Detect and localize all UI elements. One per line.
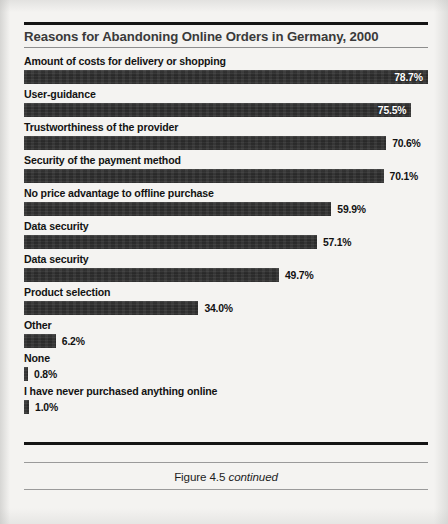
- bar-row: Amount of costs for delivery or shopping…: [24, 54, 428, 84]
- bar: [24, 202, 331, 216]
- figure-container: Reasons for Abandoning Online Orders in …: [0, 0, 448, 524]
- bar: [24, 334, 56, 348]
- bar-category-label: Other: [24, 318, 428, 333]
- figure-caption: Figure 4.5 continued: [24, 463, 428, 489]
- bar-category-label: Data security: [24, 219, 428, 234]
- bar-row: Security of the payment method70.1%: [24, 153, 428, 183]
- bar-line: 49.7%: [24, 268, 428, 282]
- bar-category-label: Trustworthiness of the provider: [24, 120, 428, 135]
- caption-label: Figure 4.5: [174, 470, 225, 483]
- bar-row: None0.8%: [24, 351, 428, 381]
- bar-line: 0.8%: [24, 367, 428, 381]
- bar: [24, 400, 29, 414]
- bar: [24, 235, 317, 249]
- bar-row: I have never purchased anything online1.…: [24, 384, 428, 414]
- bar: [24, 268, 279, 282]
- bar-value-label: 59.9%: [337, 204, 365, 215]
- bar: 78.7%: [24, 70, 428, 84]
- bar-line: 70.1%: [24, 169, 428, 183]
- bar-category-label: No price advantage to offline purchase: [24, 186, 428, 201]
- header-bottom-rule: [24, 47, 428, 48]
- bar-value-label: 6.2%: [62, 336, 85, 347]
- bar-value-label: 70.6%: [392, 138, 420, 149]
- bar: 75.5%: [24, 103, 411, 117]
- bar-category-label: Product selection: [24, 285, 428, 300]
- figure-content: Reasons for Abandoning Online Orders in …: [24, 0, 428, 490]
- bar-value-label: 49.7%: [285, 270, 313, 281]
- bar-line: 78.7%: [24, 70, 428, 84]
- bar-value-label: 70.1%: [390, 171, 418, 182]
- bar-value-label: 1.0%: [35, 402, 58, 413]
- bar-line: 57.1%: [24, 235, 428, 249]
- bar-value-label: 78.7%: [394, 72, 422, 83]
- bar: [24, 301, 198, 315]
- bar: [24, 367, 28, 381]
- chart-title: Reasons for Abandoning Online Orders in …: [24, 25, 428, 47]
- bar-line: 1.0%: [24, 400, 428, 414]
- bar-row: Trustworthiness of the provider70.6%: [24, 120, 428, 150]
- bar-category-label: Data security: [24, 252, 428, 267]
- bar-row: Product selection34.0%: [24, 285, 428, 315]
- bar-row: User-guidance75.5%: [24, 87, 428, 117]
- bar-chart: Amount of costs for delivery or shopping…: [24, 54, 428, 414]
- bar-value-label: 0.8%: [34, 369, 57, 380]
- bar-category-label: Security of the payment method: [24, 153, 428, 168]
- bar-value-label: 34.0%: [204, 303, 232, 314]
- bar-line: 70.6%: [24, 136, 428, 150]
- bar-row: Other6.2%: [24, 318, 428, 348]
- bar-value-label: 57.1%: [323, 237, 351, 248]
- bar: [24, 136, 386, 150]
- bar-line: 75.5%: [24, 103, 428, 117]
- bar-category-label: User-guidance: [24, 87, 428, 102]
- caption-continued-label: continued: [228, 470, 277, 483]
- bar-category-label: I have never purchased anything online: [24, 384, 428, 399]
- footer-top-rule: [24, 442, 428, 445]
- bar-row: Data security57.1%: [24, 219, 428, 249]
- bar-value-label: 75.5%: [378, 105, 406, 116]
- bar-line: 34.0%: [24, 301, 428, 315]
- bar: [24, 169, 384, 183]
- bar-line: 59.9%: [24, 202, 428, 216]
- caption-bottom-rule: [24, 489, 428, 490]
- bar-category-label: Amount of costs for delivery or shopping: [24, 54, 428, 69]
- bar-category-label: None: [24, 351, 428, 366]
- bar-line: 6.2%: [24, 334, 428, 348]
- bar-row: Data security49.7%: [24, 252, 428, 282]
- bar-row: No price advantage to offline purchase59…: [24, 186, 428, 216]
